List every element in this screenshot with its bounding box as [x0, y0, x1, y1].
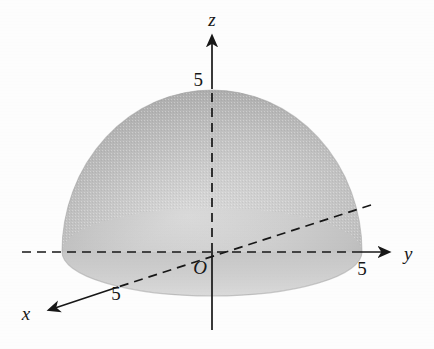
axis-label-z: z: [207, 9, 216, 30]
axis-label-x: x: [21, 303, 31, 324]
tick-label-x-5: 5: [111, 283, 121, 304]
tick-label-z-5: 5: [194, 69, 204, 90]
axis-label-y: y: [402, 243, 413, 264]
origin-label: O: [193, 257, 207, 278]
figure-canvas: z 5 y 5 x 5 O: [0, 0, 434, 349]
tick-label-y-5: 5: [357, 258, 367, 279]
axis-x-solid-tip: [49, 287, 118, 310]
hemisphere-figure: z 5 y 5 x 5 O: [0, 0, 434, 349]
